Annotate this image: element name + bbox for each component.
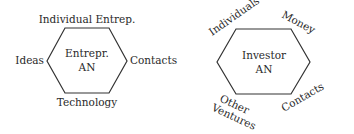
label-individual-entrep: Individual Entrep. [39,13,136,25]
label-ideas: Ideas [15,54,44,66]
entrepreneur-an-node: Entrepr. AN Individual Entrep. Ideas Con… [15,13,177,108]
investor-center-line2: AN [255,63,273,75]
investor-hexagon [217,29,310,94]
label-contacts-left: Contacts [130,54,177,66]
investor-center-line1: Investor [242,49,287,61]
label-money: Money [280,8,317,36]
label-technology: Technology [57,96,118,108]
investor-an-node: Investor AN Individuals Money Other Vent… [206,0,326,132]
label-contacts-right: Contacts [279,80,326,114]
diagram-canvas: Entrepr. AN Individual Entrep. Ideas Con… [0,0,354,134]
entrepreneur-center-line1: Entrepr. [65,47,109,59]
entrepreneur-center-line2: AN [78,61,96,73]
